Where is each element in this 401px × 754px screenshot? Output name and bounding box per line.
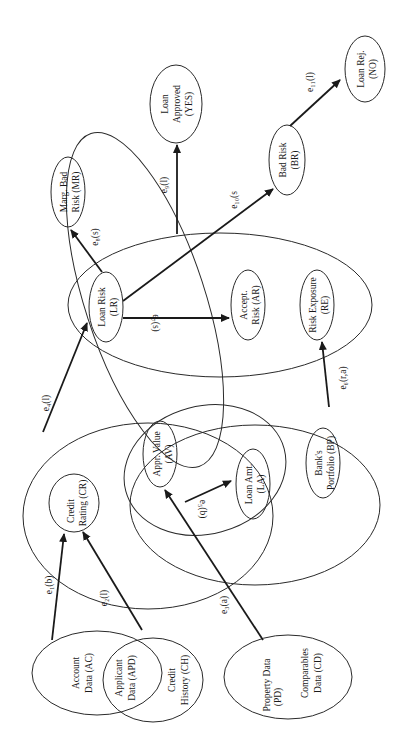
edge-e3	[165, 490, 263, 640]
edge-e2	[83, 532, 142, 630]
label-applicant-data-2: Data (APD)	[127, 655, 138, 701]
label-loan-approved-3: (YES)	[184, 92, 195, 116]
edge-label-e8: e₈(s)	[90, 228, 101, 246]
edge-label-e1: e₁(b)	[44, 576, 55, 595]
label-loan-amt-1: Loan Amt.	[244, 464, 254, 505]
label-accept-risk-2: Risk (AR)	[251, 285, 262, 324]
label-loan-risk-1: Loan Risk	[97, 287, 107, 327]
label-banks-portfolio-1: Bank's	[314, 450, 324, 476]
label-credit-rating-2: Rating (CR)	[78, 480, 89, 527]
group-tilted-margin	[34, 115, 256, 485]
edge-label-e7: e₇(s)	[150, 314, 161, 332]
label-credit-history-1: Credit	[167, 668, 177, 692]
label-appr-value-2: (AV)	[164, 445, 175, 464]
label-comparables-data-2: Data (CD)	[313, 653, 324, 693]
label-loan-amt-2: (LA)	[256, 475, 267, 494]
label-comparables-data-1: Comparables	[300, 648, 310, 698]
label-credit-history-2: History (CH)	[180, 655, 191, 705]
node-property-data	[224, 635, 352, 719]
label-account-data-2: Data (AC)	[84, 653, 95, 693]
edge-label-e9: e₉(l)	[159, 177, 170, 194]
edge-e4	[43, 323, 87, 432]
edge-label-e10: e₁₀(s	[229, 191, 240, 209]
label-loan-approved-2: Approved	[172, 85, 182, 123]
edge-label-e3: e₃(a)	[219, 596, 230, 614]
edge-label-e5: e₅(b)	[197, 500, 208, 519]
edge-e11	[290, 80, 340, 126]
label-bad-risk-1: Bad Risk	[278, 142, 288, 177]
label-risk-exposure-1: Risk Exposure	[308, 277, 318, 333]
edge-e10	[123, 189, 273, 301]
label-risk-exposure-2: (RE)	[320, 296, 331, 314]
label-loan-rejected-2: (NO)	[368, 59, 379, 79]
label-credit-rating-1: Credit	[66, 499, 76, 523]
edge-label-e2: e₂(l)	[99, 590, 110, 607]
edge-label-e6: e₆(r,a)	[338, 366, 349, 389]
label-marg-bad-risk-2: Risk (MR)	[71, 172, 82, 213]
label-applicant-data-1: Applicant	[114, 659, 124, 697]
edge-label-e11: e₁₁(l)	[305, 72, 316, 92]
edge-label-e4: e₄(l)	[41, 395, 52, 412]
node-account-data	[32, 631, 162, 715]
label-appr-value-1: Appr. Value	[152, 431, 162, 476]
label-marg-bad-risk-1: Marg. Bad	[59, 172, 69, 213]
label-bad-risk-2: (BR)	[290, 151, 301, 170]
label-accept-risk-1: Accept.	[239, 290, 249, 319]
label-account-data-1: Account	[71, 657, 81, 690]
label-loan-rejected-1: Loan Rej.	[356, 50, 366, 87]
label-loan-approved-1: Loan	[160, 94, 170, 114]
edge-e6	[322, 342, 329, 407]
label-loan-risk-2: (LR)	[109, 298, 120, 316]
label-banks-portfolio-2: Portfolio (BP)	[326, 436, 337, 490]
label-property-data-2: (PD)	[273, 688, 284, 706]
label-property-data-1: Property Data	[262, 658, 272, 712]
group-credit-appraisal	[23, 423, 273, 609]
loan-decision-diagram: Account Data (AC) Applicant Data (APD) C…	[0, 0, 401, 754]
